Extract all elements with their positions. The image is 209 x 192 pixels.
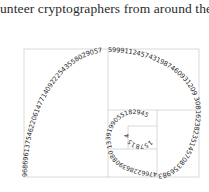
fibonacci-spiral-figure: 968696137546220614771409222543558029057 … xyxy=(0,0,209,192)
spiral-digits-top-right: 5999112457431987460931209 308 xyxy=(108,46,202,110)
spiral-digits-outer-left: 968696137546220614771409222543558029057 xyxy=(21,46,103,177)
spiral-digits-innermost: 157815 4 xyxy=(123,133,154,150)
spiral-digits-bottom: 47662286390880 xyxy=(106,150,157,178)
